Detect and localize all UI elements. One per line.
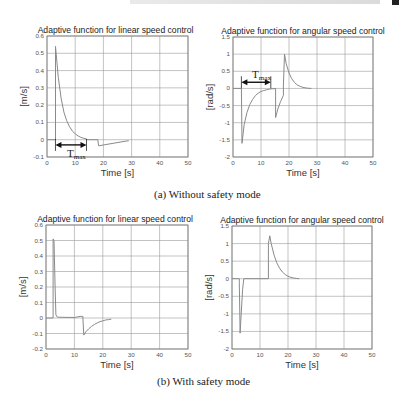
svg-text:-0.2: -0.2 [32, 345, 43, 352]
svg-text:0: 0 [230, 351, 234, 358]
chart-title: Adaptive function for linear speed contr… [37, 214, 193, 224]
svg-text:-0.5: -0.5 [218, 292, 229, 299]
svg-text:0: 0 [41, 136, 45, 143]
svg-text:0.4: 0.4 [34, 252, 43, 259]
x-axis-label: Time [s] [100, 359, 133, 370]
svg-text:20: 20 [99, 351, 106, 358]
svg-text:-1: -1 [223, 310, 229, 317]
svg-text:0: 0 [45, 159, 49, 166]
svg-text:0.1: 0.1 [35, 118, 44, 125]
svg-text:30: 30 [128, 351, 135, 358]
svg-text:20: 20 [286, 159, 293, 166]
svg-text:50: 50 [369, 351, 376, 358]
svg-text:30: 30 [314, 159, 321, 166]
x-axis-label: Time [s] [101, 167, 134, 178]
chart-title: Adaptive function for linear speed contr… [38, 25, 194, 35]
y-axis-label: [rad/s] [204, 84, 215, 110]
chart-4: 01020304050-2-1.5-1-0.500.511.5Adaptive … [203, 215, 384, 370]
svg-text:0.5: 0.5 [35, 49, 44, 56]
svg-text:0.2: 0.2 [35, 101, 44, 108]
svg-text:0.5: 0.5 [220, 257, 229, 264]
svg-text:-0.1: -0.1 [33, 153, 44, 160]
svg-text:0: 0 [227, 84, 231, 91]
figure: 01020304050-0.100.10.20.30.40.50.6Adapti… [0, 0, 402, 405]
svg-text:0: 0 [231, 159, 235, 166]
caption-b: (b) With safety mode [157, 375, 250, 387]
svg-text:1: 1 [226, 240, 230, 247]
svg-text:-0.5: -0.5 [219, 102, 230, 109]
svg-text:-1: -1 [224, 119, 230, 126]
svg-text:50: 50 [370, 159, 377, 166]
svg-text:40: 40 [156, 351, 163, 358]
chart-title: Adaptive function for angular speed cont… [221, 26, 384, 36]
svg-text:20: 20 [100, 159, 107, 166]
svg-text:-2: -2 [224, 153, 230, 160]
x-axis-label: Time [s] [285, 359, 318, 370]
svg-text:-1.5: -1.5 [219, 136, 230, 143]
y-axis-label: [rad/s] [203, 274, 214, 300]
svg-text:0: 0 [40, 314, 44, 321]
svg-text:40: 40 [341, 351, 348, 358]
svg-text:0: 0 [226, 275, 230, 282]
svg-text:0.2: 0.2 [34, 283, 43, 290]
chart-3: 01020304050-0.2-0.100.10.20.30.40.50.6Ad… [17, 214, 193, 370]
svg-text:50: 50 [185, 351, 192, 358]
svg-text:40: 40 [342, 159, 349, 166]
svg-text:20: 20 [285, 351, 292, 358]
y-axis-label: [m/s] [17, 277, 28, 298]
svg-text:40: 40 [156, 159, 163, 166]
svg-text:-2: -2 [223, 345, 229, 352]
svg-text:0.1: 0.1 [34, 299, 43, 306]
chart-2: 01020304050-2-1.5-1-0.500.511.5Adaptive … [204, 26, 385, 178]
svg-text:30: 30 [313, 351, 320, 358]
svg-text:30: 30 [128, 159, 135, 166]
svg-text:0.5: 0.5 [34, 237, 43, 244]
y-axis-label: [m/s] [18, 86, 29, 107]
svg-text:10: 10 [258, 159, 265, 166]
x-axis-label: Time [s] [286, 167, 319, 178]
svg-text:0: 0 [44, 351, 48, 358]
chart-title: Adaptive function for angular speed cont… [220, 215, 383, 225]
svg-text:0.3: 0.3 [35, 84, 44, 91]
svg-text:0.4: 0.4 [35, 67, 44, 74]
caption-a: (a) Without safety mode [154, 188, 261, 200]
svg-text:0.5: 0.5 [221, 67, 230, 74]
svg-text:10: 10 [71, 351, 78, 358]
svg-text:-1.5: -1.5 [218, 327, 229, 334]
svg-text:10: 10 [257, 351, 264, 358]
svg-text:0.3: 0.3 [34, 268, 43, 275]
svg-text:50: 50 [185, 159, 192, 166]
svg-text:-0.1: -0.1 [32, 330, 43, 337]
chart-1: 01020304050-0.100.10.20.30.40.50.6Adapti… [18, 25, 193, 178]
svg-text:1: 1 [227, 50, 231, 57]
